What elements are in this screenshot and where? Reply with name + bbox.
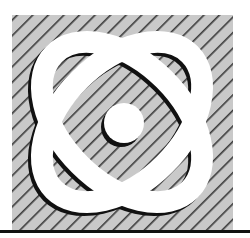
atom-emblem: [0, 0, 250, 238]
center-dot: [104, 103, 144, 143]
bottom-rule: [0, 230, 250, 233]
